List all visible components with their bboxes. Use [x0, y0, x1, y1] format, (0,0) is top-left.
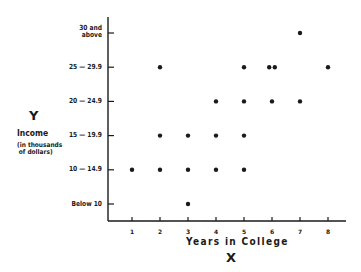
data-point: [267, 65, 271, 69]
data-point: [214, 168, 218, 172]
data-point: [158, 168, 162, 172]
x-tick-label: 7: [294, 228, 306, 235]
x-tick-label: 3: [182, 228, 194, 235]
x-tick-label: 1: [126, 228, 138, 235]
data-point: [186, 133, 190, 137]
x-tick-label: 2: [154, 228, 166, 235]
data-point: [298, 31, 302, 35]
y-axis-title: Income: [17, 128, 48, 138]
data-point: [326, 65, 330, 69]
x-tick-label: 4: [210, 228, 222, 235]
data-point: [270, 99, 274, 103]
y-tick-label: 20 — 24.9: [17, 98, 102, 105]
y-axis-letter: Y: [29, 108, 38, 123]
y-tick-label: 10 — 14.9: [17, 166, 102, 173]
data-points: [130, 31, 330, 206]
data-point: [298, 99, 302, 103]
data-point: [158, 133, 162, 137]
x-tick-label: 5: [238, 228, 250, 235]
y-tick-label: 25 — 29.9: [17, 64, 102, 71]
data-point: [242, 133, 246, 137]
data-point: [186, 202, 190, 206]
y-tick-label: 30 andabove: [17, 25, 102, 39]
y-tick-label: Below 10: [17, 201, 102, 208]
x-axis-title: Years in College: [186, 236, 289, 247]
data-point: [242, 65, 246, 69]
x-tick-label: 6: [266, 228, 278, 235]
y-axis-subtitle-line2: of dollars): [17, 149, 62, 156]
data-point: [158, 65, 162, 69]
y-axis-subtitle: (in thousands of dollars): [17, 142, 62, 156]
data-point: [130, 168, 134, 172]
data-point: [214, 133, 218, 137]
data-point: [242, 168, 246, 172]
data-point: [186, 168, 190, 172]
data-point: [273, 65, 277, 69]
x-tick-label: 8: [322, 228, 334, 235]
x-axis-letter: X: [226, 250, 236, 265]
data-point: [214, 99, 218, 103]
axes: [108, 17, 346, 221]
data-point: [242, 99, 246, 103]
